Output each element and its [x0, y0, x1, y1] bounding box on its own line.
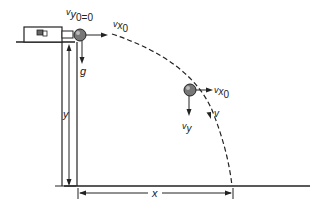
- mid-vx0-arrow-icon: [206, 88, 213, 93]
- gravity-label: g: [80, 65, 87, 77]
- vy-label: vy: [182, 121, 193, 134]
- projectile-diagram: y x g vy0=0 vx0 vx0 vy v: [0, 0, 321, 211]
- initial-vy-label: vy0=0: [66, 7, 93, 23]
- initial-ball: [74, 29, 86, 41]
- gravity-arrow-icon: [80, 57, 85, 64]
- vx0-top-label: vx0: [113, 19, 129, 34]
- vy-arrow-icon: [187, 109, 192, 116]
- vx0-mid-label: vx0: [214, 85, 230, 100]
- range-label: x: [151, 187, 158, 199]
- velocity-label: v: [214, 108, 220, 119]
- velocity-arrow-icon: [207, 112, 212, 119]
- launcher-platform: [16, 27, 75, 42]
- vx0-arrow-icon: [101, 33, 108, 38]
- mid-ball: [184, 84, 196, 96]
